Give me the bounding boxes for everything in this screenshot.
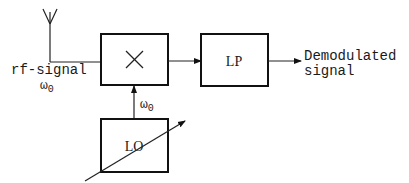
lo-frequency-label: ω0 (140, 97, 154, 114)
antenna-icon (43, 9, 57, 62)
output-label-line2: signal (304, 63, 354, 79)
local-oscillator-block: LO (85, 119, 185, 181)
lowpass-filter-block: LP (201, 34, 268, 86)
lowpass-label: LP (226, 54, 243, 69)
mixer-block (101, 34, 168, 85)
rf-frequency-label: ω0 (40, 78, 54, 95)
diagram-canvas: rf-signal ω0 LP Demodulated signal ω0 LO (0, 0, 409, 183)
rf-signal-label: rf-signal (11, 62, 87, 78)
output-label-line1: Demodulated (304, 48, 396, 64)
